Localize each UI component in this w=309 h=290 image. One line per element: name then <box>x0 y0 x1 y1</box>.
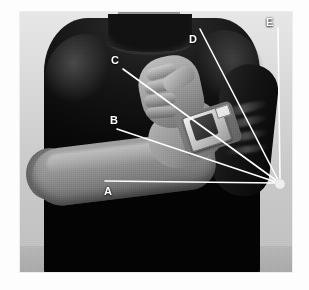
annotation-label-c: C <box>111 55 119 66</box>
annotation-label-d: D <box>189 34 197 45</box>
photograph <box>20 12 292 272</box>
annotation-label-e: E <box>266 17 274 28</box>
annotation-label-b: B <box>110 115 118 126</box>
shirt-collar-rim <box>106 26 194 55</box>
figure-root: ABCDE <box>0 0 309 290</box>
finger <box>146 106 177 119</box>
annotation-label-a: A <box>104 186 112 197</box>
